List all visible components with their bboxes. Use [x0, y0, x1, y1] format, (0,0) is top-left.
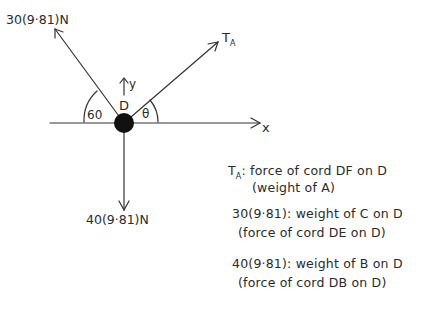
- note-b-line1: 40(9·81): weight of B on D: [232, 256, 403, 271]
- note-c-line1: 30(9·81): weight of C on D: [232, 206, 403, 221]
- note-ta-line1: : force of cord DF on D: [242, 163, 388, 178]
- note-ta: TA: force of cord DF on D: [228, 163, 387, 181]
- angle-theta-arc: [150, 100, 158, 122]
- note-c-line2: (force of cord DE on D): [238, 225, 386, 240]
- point-d-dot: [114, 113, 134, 133]
- note-b-line2: (force of cord DB on D): [238, 275, 387, 290]
- force-left-label: 30(9·81)N: [6, 12, 69, 27]
- y-axis-label: y: [129, 77, 136, 91]
- note-ta-line2: (weight of A): [252, 180, 335, 195]
- angle-theta-label: θ: [142, 107, 149, 121]
- force-ta-main: T: [222, 30, 230, 45]
- angle-60-label: 60: [87, 108, 102, 122]
- point-d-label: D: [119, 98, 129, 113]
- force-ta-label: TA: [222, 30, 235, 48]
- force-down-label: 40(9·81)N: [86, 212, 149, 227]
- force-ta-line: [124, 42, 218, 123]
- x-axis-label: x: [262, 120, 270, 135]
- force-ta-sub: A: [230, 39, 235, 48]
- note-ta-head: T: [228, 163, 236, 178]
